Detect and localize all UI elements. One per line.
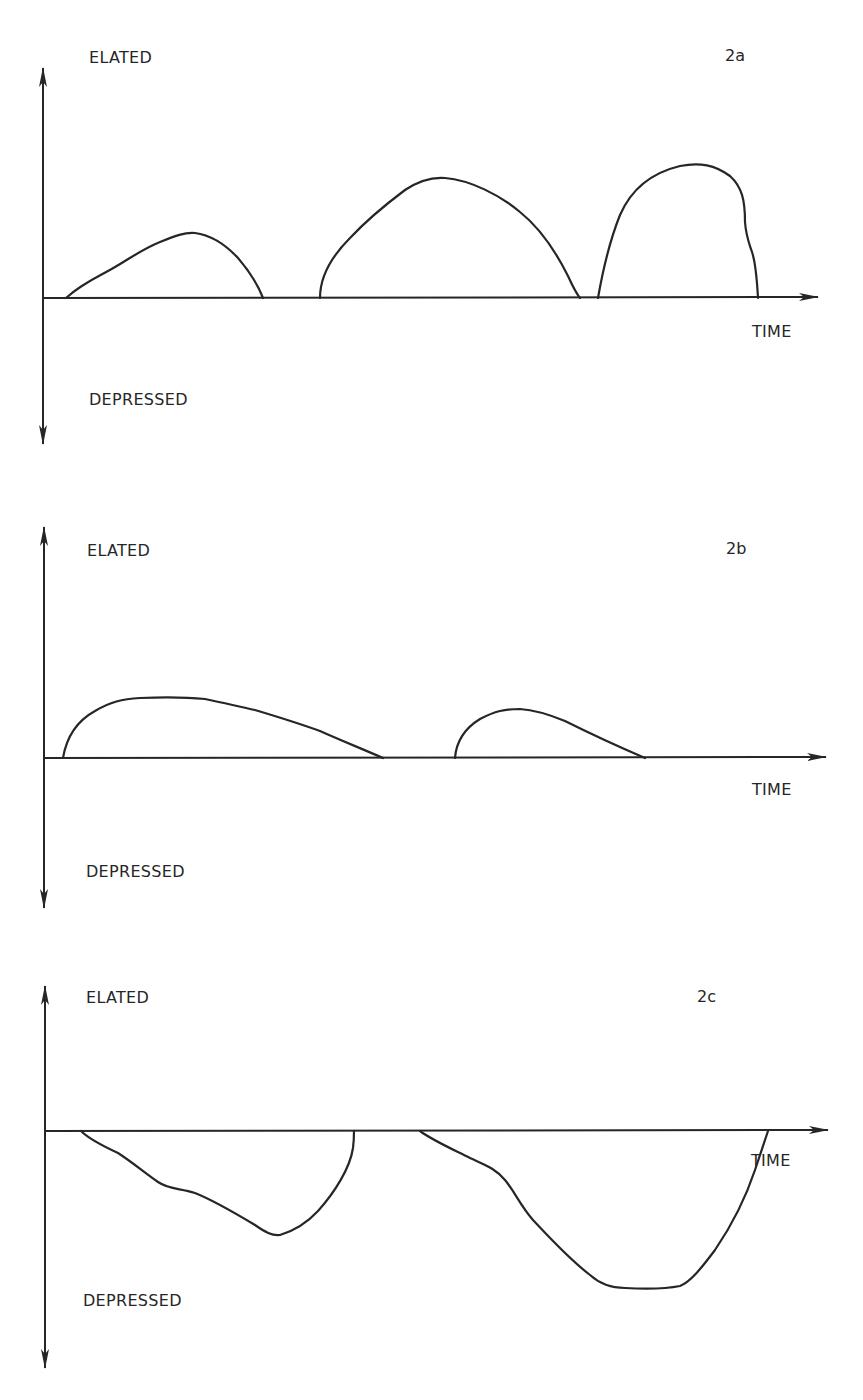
figure-id: 2a bbox=[725, 46, 745, 65]
elated-label: ELATED bbox=[86, 988, 149, 1007]
mood-curve bbox=[66, 164, 758, 298]
elated-label: ELATED bbox=[89, 48, 152, 67]
figure-id: 2c bbox=[697, 987, 716, 1006]
figure-2b bbox=[44, 527, 826, 908]
elated-label: ELATED bbox=[87, 541, 150, 560]
time-label: TIME bbox=[751, 1151, 791, 1170]
time-axis-arrow-icon bbox=[43, 297, 818, 298]
figure-id: 2b bbox=[726, 539, 746, 558]
depressed-label: DEPRESSED bbox=[86, 862, 185, 881]
figure-2c bbox=[45, 986, 828, 1368]
time-label: TIME bbox=[752, 780, 792, 799]
figure-2a bbox=[43, 68, 818, 444]
time-label: TIME bbox=[752, 322, 792, 341]
depressed-label: DEPRESSED bbox=[89, 390, 188, 409]
time-axis-arrow-icon bbox=[44, 757, 826, 758]
mood-curve bbox=[63, 697, 645, 758]
mood-curve bbox=[81, 1131, 768, 1289]
depressed-label: DEPRESSED bbox=[83, 1291, 182, 1310]
time-axis-arrow-icon bbox=[45, 1130, 828, 1131]
diagram-canvas bbox=[0, 0, 863, 1400]
